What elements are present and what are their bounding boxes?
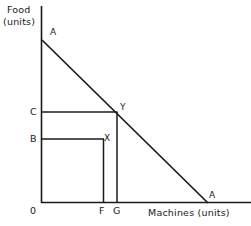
curve-label-a-top: A [50, 27, 56, 38]
point-label-y: Y [120, 102, 126, 113]
y-tick-label-c: C [30, 106, 37, 117]
curve-label-a-bottom: A [209, 190, 215, 201]
origin-label: 0 [30, 205, 36, 216]
ppf-chart-figure: Food (units) Machines (units) 0 A A X Y … [0, 0, 251, 226]
point-label-x: X [104, 133, 110, 144]
x-axis-title: Machines (units) [148, 207, 230, 218]
x-tick-label-f: F [99, 205, 105, 216]
y-axis-title-line1: Food [7, 4, 31, 15]
y-tick-label-b: B [30, 133, 37, 144]
y-axis-title-line2: (units) [3, 16, 35, 27]
x-tick-label-g: G [113, 205, 121, 216]
ppf-curve-line [42, 40, 208, 203]
